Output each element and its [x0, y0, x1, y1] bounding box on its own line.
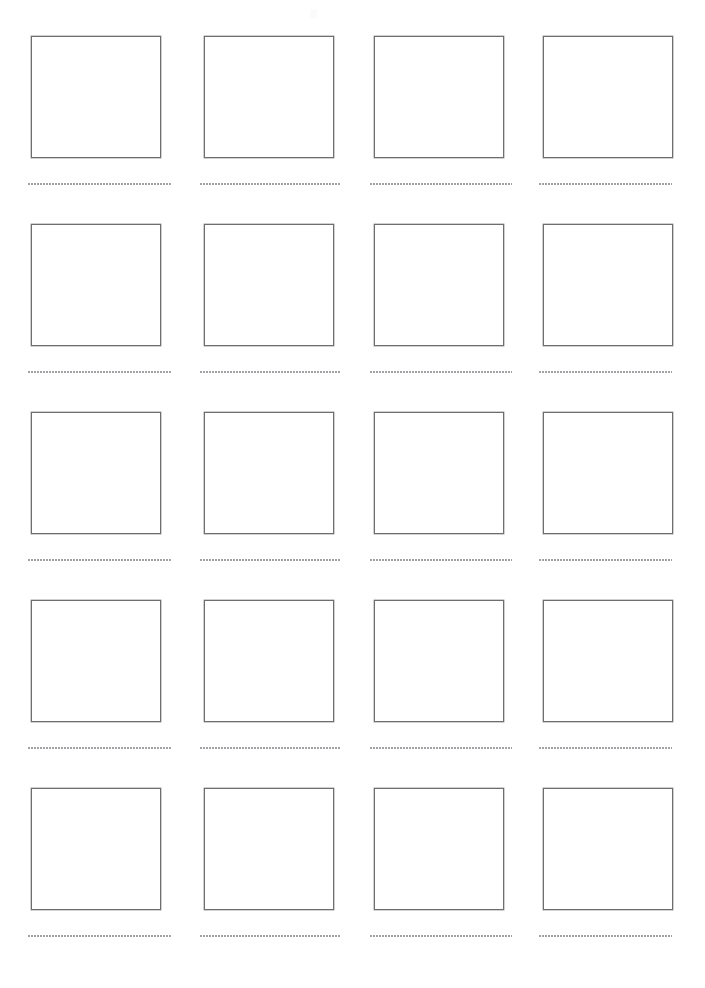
drawing-box[interactable]: [543, 36, 673, 158]
drawing-box[interactable]: [204, 788, 334, 910]
writing-line[interactable]: [200, 183, 340, 185]
writing-line[interactable]: [370, 183, 512, 185]
drawing-box[interactable]: [374, 600, 504, 722]
scan-artifact-mark: [310, 9, 317, 18]
drawing-box[interactable]: [543, 412, 673, 534]
writing-line[interactable]: [370, 371, 512, 373]
writing-line[interactable]: [28, 183, 172, 185]
writing-line[interactable]: [539, 559, 672, 561]
drawing-box[interactable]: [543, 600, 673, 722]
writing-line[interactable]: [370, 747, 512, 749]
writing-line[interactable]: [539, 183, 672, 185]
drawing-box[interactable]: [374, 412, 504, 534]
writing-line[interactable]: [539, 371, 672, 373]
drawing-box[interactable]: [543, 224, 673, 346]
drawing-box[interactable]: [204, 412, 334, 534]
drawing-box[interactable]: [543, 788, 673, 910]
drawing-box[interactable]: [374, 788, 504, 910]
drawing-box[interactable]: [31, 412, 161, 534]
drawing-box[interactable]: [31, 36, 161, 158]
writing-line[interactable]: [200, 371, 340, 373]
writing-line[interactable]: [370, 935, 512, 937]
writing-line[interactable]: [539, 747, 672, 749]
writing-line[interactable]: [28, 747, 172, 749]
drawing-box[interactable]: [31, 600, 161, 722]
drawing-box[interactable]: [31, 788, 161, 910]
writing-line[interactable]: [200, 559, 340, 561]
drawing-box[interactable]: [204, 36, 334, 158]
writing-line[interactable]: [28, 935, 172, 937]
drawing-box[interactable]: [374, 224, 504, 346]
writing-line[interactable]: [200, 935, 340, 937]
drawing-box[interactable]: [374, 36, 504, 158]
worksheet-sheet: [0, 0, 705, 988]
writing-line[interactable]: [200, 747, 340, 749]
writing-line[interactable]: [28, 559, 172, 561]
writing-line[interactable]: [539, 935, 672, 937]
writing-line[interactable]: [28, 371, 172, 373]
drawing-box[interactable]: [204, 600, 334, 722]
drawing-box[interactable]: [31, 224, 161, 346]
writing-line[interactable]: [370, 559, 512, 561]
drawing-box[interactable]: [204, 224, 334, 346]
